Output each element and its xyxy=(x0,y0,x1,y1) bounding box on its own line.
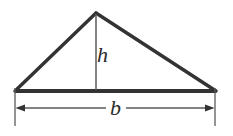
triangle-left-edge xyxy=(15,13,96,91)
arrowhead-left-icon xyxy=(16,104,26,111)
triangle-right-edge xyxy=(96,13,216,91)
triangle-figure: h b xyxy=(0,0,233,136)
triangle-outline xyxy=(15,13,216,91)
base-label: b xyxy=(110,97,121,119)
height-label: h xyxy=(97,44,108,66)
arrowhead-right-icon xyxy=(205,104,215,111)
